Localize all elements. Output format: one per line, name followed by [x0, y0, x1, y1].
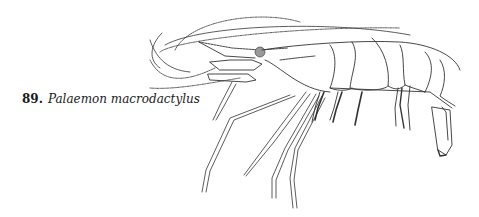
shrimp-illustration [0, 0, 479, 217]
carapace [199, 41, 460, 92]
abdomen [330, 38, 455, 108]
antennae [150, 17, 410, 88]
tail-fan [432, 107, 452, 156]
walking-legs [202, 82, 325, 208]
pleopods [312, 86, 410, 130]
